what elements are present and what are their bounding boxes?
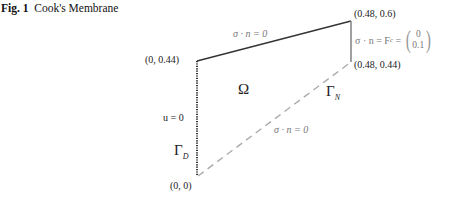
force-vector: 0 0.1 [412, 29, 424, 51]
right-edge-condition-label: σ · n = Fc = ( 0 0.1 ) [355, 27, 433, 53]
gamma-subscript: N [335, 93, 340, 102]
traction-lhs: σ · n = F [355, 35, 390, 46]
dirichlet-condition-label: u = 0 [163, 112, 184, 123]
vertex-label-bottom-left: (0, 0) [170, 180, 192, 191]
force-vector-y: 0.1 [412, 40, 424, 51]
top-edge [197, 21, 351, 61]
gamma-symbol: Γ [326, 83, 335, 99]
vertex-label-top-right: (0.48, 0.6) [354, 8, 396, 19]
top-edge-condition-text: σ · n = 0 [233, 28, 267, 39]
right-edge-condition-expression: σ · n = Fc = ( 0 0.1 ) [355, 27, 433, 53]
gamma-subscript: D [183, 152, 189, 161]
neumann-boundary-label: ΓN [326, 83, 340, 102]
bottom-edge-condition-text: σ · n = 0 [274, 124, 308, 135]
gamma-symbol: Γ [174, 142, 183, 158]
right-paren: ) [426, 27, 431, 53]
equals-sign: = [393, 35, 404, 46]
left-paren: ( [405, 27, 410, 53]
vertex-label-top-left: (0, 0.44) [145, 54, 179, 65]
bottom-edge-condition-label: σ · n = 0 [274, 124, 308, 135]
dirichlet-boundary-label: ΓD [174, 142, 188, 161]
region-omega-label: Ω [238, 81, 249, 98]
force-vector-x: 0 [416, 29, 421, 40]
vertex-label-bottom-right: (0.48, 0.44) [354, 59, 401, 70]
top-edge-condition-label: σ · n = 0 [233, 28, 267, 39]
bottom-edge-dashed [198, 62, 351, 176]
